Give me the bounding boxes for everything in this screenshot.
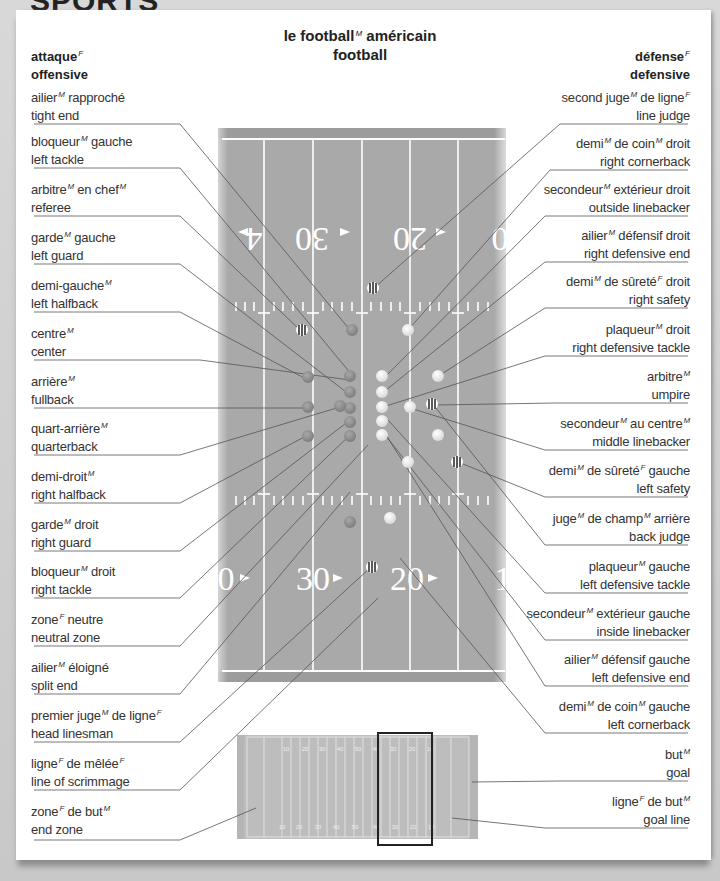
svg-text:40: 40 [337, 746, 344, 752]
offense-label: ailierM rapprochétight end [31, 86, 201, 125]
defense-label: demiM de coinM gaucheleft cornerback [500, 695, 690, 734]
defense-label: plaqueurM droitright defensive tackle [500, 318, 690, 357]
svg-text:30: 30 [390, 746, 397, 752]
svg-text:30: 30 [392, 824, 399, 830]
defense-label: secondeurM extérieur droitoutside lineba… [500, 178, 690, 217]
offense-label: centreMcenter [31, 322, 201, 361]
mini-field-overview: 10 20 30 40 50 40 30 20 10 10 20 30 40 5… [237, 733, 478, 845]
defense-label: jugeM de champM arrièreback judge [500, 507, 690, 546]
offense-label: zoneF neutreneutral zone [31, 608, 201, 647]
defense-label: demiM de sûretéF gaucheleft safety [500, 459, 690, 498]
offense-label: gardeM gaucheleft guard [31, 226, 201, 265]
offense-label: bloqueurM gaucheleft tackle [31, 130, 201, 169]
svg-text:30: 30 [315, 824, 322, 830]
defense-label: secondeurM au centreMmiddle linebacker [500, 412, 690, 451]
svg-text:30: 30 [296, 560, 330, 597]
svg-text:20: 20 [296, 824, 303, 830]
svg-text:20: 20 [410, 824, 417, 830]
main-field: 4 30 20 0 0 30 20 1 [208, 128, 514, 682]
svg-text:30: 30 [295, 221, 329, 258]
defense-label: arbitreMumpire [500, 365, 690, 404]
defense-label: demiM de coinM droitright cornerback [500, 132, 690, 171]
defense-label: ailierM défensif gaucheleft defensive en… [500, 648, 690, 687]
offense-label: ligneF de mêléeFline of scrimmage [31, 752, 201, 791]
defense-label: plaqueurM gaucheleft defensive tackle [500, 555, 690, 594]
offense-label: bloqueurM droitright tackle [31, 560, 201, 599]
svg-text:30: 30 [319, 746, 326, 752]
offense-label: demi-gaucheMleft halfback [31, 274, 201, 313]
diagram-title: le footballM américain football [0, 24, 720, 64]
offense-label: premier jugeM de ligneFhead linesman [31, 704, 201, 743]
svg-text:20: 20 [409, 746, 416, 752]
offense-label: demi-droitMright halfback [31, 465, 201, 504]
offense-label: gardeM droitright guard [31, 513, 201, 552]
defense-heading: défenseF defensive [630, 45, 690, 84]
offense-label: ailierM éloignésplit end [31, 656, 201, 695]
svg-text:10: 10 [283, 746, 290, 752]
defense-label: ligneF de butMgoal line [500, 790, 690, 829]
svg-text:10: 10 [279, 824, 286, 830]
defense-label: secondeurM extérieur gaucheinside lineba… [500, 602, 690, 641]
offense-label: quart-arrièreMquarterback [31, 417, 201, 456]
defense-label: ailierM défensif droitright defensive en… [500, 224, 690, 263]
svg-text:50: 50 [355, 746, 362, 752]
svg-text:40: 40 [333, 824, 340, 830]
offense-label: arbitreM en chefMreferee [31, 178, 201, 217]
svg-text:20: 20 [390, 560, 424, 597]
svg-text:50: 50 [352, 824, 359, 830]
defense-label: second jugeM de ligneFline judge [500, 86, 690, 125]
offense-label: zoneF de butMend zone [31, 800, 201, 839]
offense-label: arrièreMfullback [31, 370, 201, 409]
svg-text:20: 20 [302, 746, 309, 752]
svg-text:20: 20 [393, 221, 427, 258]
defense-label: demiM de sûretéF droitright safety [500, 270, 690, 309]
svg-text:4: 4 [246, 221, 263, 258]
offense-heading: attaqueF offensive [31, 45, 88, 84]
defense-label: butMgoal [500, 743, 690, 782]
